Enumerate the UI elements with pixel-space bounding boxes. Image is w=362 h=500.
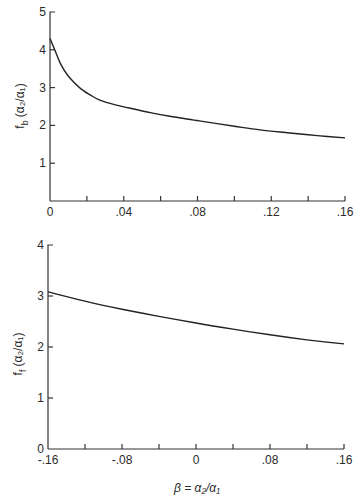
- bottom-x-tick-label: .16: [336, 453, 353, 467]
- bottom-y-tick-label: 3: [37, 289, 44, 303]
- top-x-tick-label: .04: [115, 205, 132, 219]
- top-x-tick-label: .12: [263, 205, 280, 219]
- bottom-y-axis-label: ff(α₂/α₁): [11, 333, 28, 376]
- top-y-tick-label: 4: [39, 43, 46, 57]
- bottom-y-tick-label: 2: [37, 340, 44, 354]
- bottom-x-tick-label: 0: [193, 453, 200, 467]
- bottom-x-tick-label: .08: [262, 453, 279, 467]
- top-y-tick-label: 2: [39, 118, 46, 132]
- top-chart-fb: 0.04.08.12.16 12345 fb(α₂/α₁): [13, 5, 354, 219]
- top-series-line-f_b: [50, 39, 345, 138]
- bottom-y-tick-label: 4: [37, 238, 44, 252]
- figure: 0.04.08.12.16 12345 fb(α₂/α₁) -.16-.080.…: [0, 0, 362, 500]
- top-y-tick-label: 5: [39, 5, 46, 19]
- top-y-tick-label: 1: [39, 156, 46, 170]
- top-y-axis-label: fb(α₂/α₁): [13, 83, 30, 128]
- top-x-tick-label: .08: [189, 205, 206, 219]
- bottom-x-axis-label: β = α₂/α₁: [173, 481, 220, 495]
- bottom-x-tick-label: -.08: [112, 453, 133, 467]
- bottom-chart-ff: -.16-.080.08.16 01234 ff(α₂/α₁) β = α₂/α…: [11, 238, 353, 495]
- top-y-tick-label: 3: [39, 81, 46, 95]
- bottom-series-line-f_f: [48, 292, 344, 344]
- bottom-y-tick-label: 0: [37, 442, 44, 456]
- bottom-y-tick-label: 1: [37, 391, 44, 405]
- top-x-tick-label: .16: [337, 205, 354, 219]
- top-x-tick-label: 0: [47, 205, 54, 219]
